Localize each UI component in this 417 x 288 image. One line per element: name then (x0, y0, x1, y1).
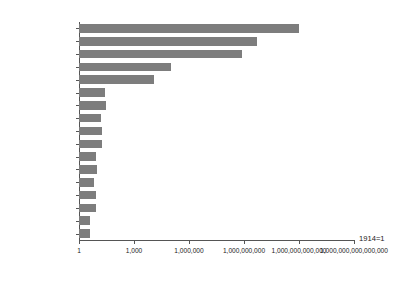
chart-row: ドイツ (79, 22, 410, 35)
bar (79, 114, 101, 123)
x-axis-tick-label: 1,000,000,000,000 (271, 247, 326, 254)
chart-row: フランス (79, 125, 410, 138)
bar (79, 75, 154, 84)
chart-row: ポーランド (79, 48, 410, 61)
bar (79, 165, 97, 174)
chart-row: ハンガリー (79, 60, 410, 73)
bar (79, 24, 299, 33)
x-axis-tick (79, 240, 80, 244)
bar (79, 101, 106, 110)
x-axis-tick (189, 240, 190, 244)
chart-row: スウェーデン (79, 163, 410, 176)
bar (79, 88, 105, 97)
chart-row: イギリス (79, 176, 410, 189)
chart-row: スペイン (79, 214, 410, 227)
chart-row: フィンランド (79, 99, 410, 112)
x-axis-tick-label: 1,000,000,000,000,000 (320, 247, 388, 254)
bar (79, 204, 96, 213)
plot-area: ドイツロシアポーランドハンガリーオーストリアチェコフィンランドベルギーフランスイ… (79, 22, 410, 240)
chart-row: チェコ (79, 86, 410, 99)
chart-row: ロシア (79, 35, 410, 48)
chart-row: イタリア (79, 137, 410, 150)
x-axis-tick (134, 240, 135, 244)
axis-annotation: 1914=1 (359, 234, 385, 243)
x-axis-tick-label: 1 (77, 247, 81, 254)
chart-row: オーストリア (79, 73, 410, 86)
bar (79, 127, 102, 136)
x-axis-tick-label: 1,000 (126, 247, 143, 254)
chart-row: ベルギー (79, 112, 410, 125)
bar (79, 140, 102, 149)
x-axis-tick (354, 240, 355, 244)
bar (79, 50, 242, 59)
bar (79, 63, 171, 72)
chart-row: ノルウェー (79, 150, 410, 163)
bar (79, 178, 94, 187)
chart-row: デンマーク (79, 189, 410, 202)
bar (79, 229, 90, 238)
bar-chart: ドイツロシアポーランドハンガリーオーストリアチェコフィンランドベルギーフランスイ… (0, 0, 417, 288)
x-axis-tick (244, 240, 245, 244)
chart-row: オランダ (79, 202, 410, 215)
bar (79, 152, 96, 161)
bar (79, 216, 90, 225)
bar (79, 191, 96, 200)
bar (79, 37, 257, 46)
x-axis-tick (299, 240, 300, 244)
x-axis-tick-label: 1,000,000,000 (223, 247, 265, 254)
x-axis-line (79, 240, 355, 241)
x-axis-tick-label: 1,000,000 (174, 247, 203, 254)
